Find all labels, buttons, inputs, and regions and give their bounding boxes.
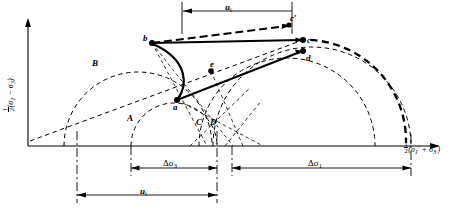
dimension-label-ui-top: ui	[225, 3, 232, 13]
dsigma1-symbol: Δσ	[308, 158, 319, 168]
ui-bottom-arrow-left	[77, 192, 86, 197]
dsigma3-subscript: 3	[174, 162, 177, 169]
point-label-c-prime: c′	[290, 14, 297, 23]
path-a-to-b-curve	[153, 44, 184, 100]
mohr-circles-group	[64, 47, 411, 146]
dimension-label-dsigma3: Δσ3	[163, 159, 177, 169]
x-axis-label-expr: (σ1′ + σ3′)	[408, 145, 440, 154]
dimension-ui-top	[182, 2, 292, 34]
point-marker-c-prime	[286, 22, 291, 27]
construction-lines-group	[152, 43, 263, 146]
figure-svg	[0, 0, 461, 214]
radius-a-right	[177, 100, 263, 146]
point-label-e: e	[210, 60, 214, 69]
point-label-c: c	[307, 36, 311, 45]
point-marker-c	[300, 37, 306, 43]
axes-group	[25, 18, 440, 149]
point-label-a: a	[173, 103, 178, 112]
point-label-b: b	[143, 34, 148, 43]
dimension-label-dsigma1: Δσ1	[308, 159, 322, 169]
dsigma1-arrow-left	[232, 166, 241, 171]
y-axis-fraction: 12	[2, 107, 15, 111]
ui-top-arrow-left	[183, 8, 192, 13]
dsigma3-symbol: Δσ	[163, 158, 174, 168]
dsigma3-arrow-left	[131, 166, 140, 171]
point-label-d: d	[306, 54, 311, 63]
projection-lines-group	[77, 131, 411, 203]
circle-B	[64, 72, 212, 146]
dimension-label-ui-bottom: ui	[140, 187, 147, 197]
curve-label-B: B	[92, 59, 98, 68]
circle-C	[199, 58, 375, 146]
path-a-to-d	[177, 52, 300, 100]
y-axis-arrowhead	[25, 18, 31, 27]
x-axis-label: 12(σ1′ + σ3′)	[404, 141, 440, 156]
k-line	[30, 40, 303, 141]
y-axis-label: 12(σ1 − σ3)	[2, 60, 16, 130]
failure-envelope-arc	[299, 40, 406, 143]
ui-bottom-subscript: i	[145, 190, 147, 197]
curve-label-D: D	[210, 118, 217, 127]
dsigma3-arrow-right	[209, 166, 218, 171]
ui-top-subscript: i	[230, 6, 232, 13]
dsigma1-arrow-right	[403, 166, 412, 171]
curve-label-C: C	[196, 118, 202, 127]
mohr-stress-path-figure: 12(σ1 − σ3) 12(σ1′ + σ3′) a b c c′ d e A…	[0, 0, 461, 214]
point-marker-e	[208, 68, 214, 74]
point-marker-b	[149, 40, 155, 46]
radius-b-down	[152, 43, 233, 146]
dsigma1-subscript: 1	[319, 162, 322, 169]
dimension-lines-bottom	[77, 166, 411, 198]
ui-bottom-arrow-right	[208, 192, 217, 197]
radius-cross-2	[225, 100, 262, 146]
path-b-to-c	[152, 40, 300, 43]
y-axis-label-expr: (σ1 − σ3)	[6, 78, 15, 107]
curve-label-A: A	[127, 114, 133, 123]
